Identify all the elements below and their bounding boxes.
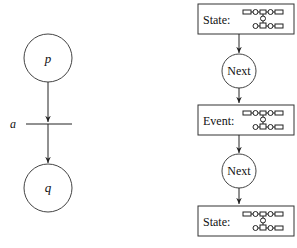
transition-a: a (10, 117, 72, 131)
state-box-initial: State: (198, 4, 294, 34)
state-box-initial-label: State: (203, 13, 230, 27)
left-petri-net: p a q (10, 34, 72, 212)
event-box: Event: (198, 105, 294, 135)
state-box-final: State: (198, 206, 294, 236)
next-circle-2: Next (222, 154, 256, 188)
state-box-final-label: State: (203, 215, 230, 229)
diagram-canvas: p a q State: Next Event: (0, 0, 297, 248)
right-state-chain: State: Next Event: Next State: (198, 4, 294, 236)
place-p-label: p (44, 51, 52, 66)
place-q: q (24, 164, 72, 212)
place-q-label: q (45, 180, 52, 195)
next-circle-1-label: Next (227, 64, 251, 78)
next-circle-1: Next (222, 54, 256, 88)
next-circle-2-label: Next (227, 164, 251, 178)
transition-a-label: a (10, 117, 16, 131)
place-p: p (24, 34, 72, 82)
event-box-label: Event: (203, 114, 234, 128)
